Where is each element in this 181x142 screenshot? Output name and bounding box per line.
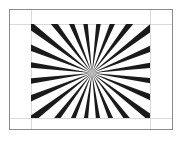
canvas-root [0, 0, 181, 142]
starburst-figure [0, 0, 181, 142]
